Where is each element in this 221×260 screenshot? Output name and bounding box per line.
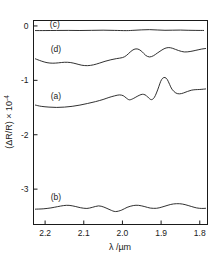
curve-label-c: (c): [50, 19, 60, 29]
curve-label-a: (a): [51, 91, 62, 101]
x-axis-tick-labels: 2.22.12.01.91.8: [39, 228, 206, 238]
curve-label-d: (d): [51, 44, 62, 54]
x-tick-label: 1.8: [194, 228, 206, 238]
x-tick-label: 2.1: [78, 228, 90, 238]
spectrum-plot: 2.22.12.01.91.8 0-1-2-3 (c)(d)(a)(b) λ /…: [0, 0, 221, 260]
y-tick-label: -3: [21, 184, 29, 194]
x-tick-label: 2.0: [117, 228, 129, 238]
svg-text:(ΔR/R) × 10-4: (ΔR/R) × 10-4: [3, 95, 14, 149]
y-axis-title: (ΔR/R) × 10-4: [3, 95, 14, 149]
y-axis-ticks: [34, 26, 38, 189]
figure-container: 2.22.12.01.91.8 0-1-2-3 (c)(d)(a)(b) λ /…: [0, 0, 221, 260]
y-tick-label: -2: [21, 130, 29, 140]
y-axis-title-text: (ΔR/R) × 10: [4, 101, 14, 149]
y-axis-tick-labels: 0-1-2-3: [21, 21, 29, 194]
y-tick-label: 0: [24, 21, 29, 31]
x-axis-ticks: [45, 221, 200, 225]
data-curves: [35, 30, 205, 212]
curve-c: [35, 30, 203, 31]
y-tick-label: -1: [21, 75, 29, 85]
x-tick-label: 2.2: [39, 228, 51, 238]
x-tick-label: 1.9: [155, 228, 167, 238]
curve-b: [35, 204, 205, 212]
curve-label-b: (b): [51, 192, 62, 202]
y-axis-title-exponent: -4: [3, 95, 10, 101]
x-axis-title: λ /µm: [109, 242, 131, 252]
curve-labels: (c)(d)(a)(b): [50, 19, 61, 202]
